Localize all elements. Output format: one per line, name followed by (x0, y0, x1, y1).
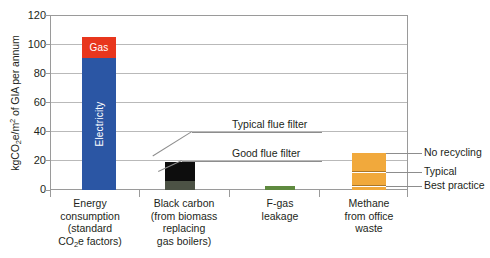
y-tick-label-80: 80 (6, 68, 46, 79)
category-label-black-carbon-line-1: Black carbon (137, 197, 231, 210)
bar-segment-good-flue-filter (165, 181, 195, 190)
emissions-bar-chart: kgCO2e/m2 of GIA per annum 120 100 80 60… (0, 0, 490, 258)
leader-line-typical (386, 172, 422, 173)
category-label-energy-line-1: Energy (45, 197, 135, 210)
x-tick-mark-2 (229, 190, 230, 197)
bar-f-gas-leakage (265, 186, 295, 190)
x-tick-mark-3 (319, 190, 320, 197)
x-tick-mark-0 (50, 190, 51, 197)
annotation-good-flue-filter: Good flue filter (232, 147, 300, 159)
annotation-typical: Typical (424, 165, 457, 177)
y-axis-title-sup-2: 2 (8, 119, 17, 123)
category-label-methane-line-2: from office (326, 210, 412, 223)
annotation-no-recycling: No recycling (424, 146, 482, 158)
annotation-good-flue-filter-underline (182, 161, 322, 162)
y-tick-label-0: 0 (6, 184, 46, 195)
annotation-typical-flue-filter: Typical flue filter (232, 118, 307, 130)
bar-segment-no-recycling (352, 153, 386, 172)
bar-energy-consumption: Gas Electricity (82, 37, 116, 190)
bar-segment-typical-recycling (352, 173, 386, 186)
category-label-f-gas-line-1: F-gas (237, 197, 323, 210)
y-tick-label-20: 20 (6, 155, 46, 166)
annotation-typical-flue-filter-underline (192, 132, 322, 133)
category-label-energy-consumption: Energy consumption (standard CO2e factor… (45, 197, 135, 249)
bar-segment-gas: Gas (82, 37, 116, 58)
bar-segment-electricity: Electricity (82, 58, 116, 190)
category-label-f-gas-leakage: F-gas leakage (237, 197, 323, 222)
bar-segment-gas-label: Gas (82, 37, 116, 58)
x-tick-mark-4 (407, 190, 408, 197)
bar-segment-electricity-label: Electricity (33, 107, 165, 141)
category-label-black-carbon: Black carbon (from biomass replacing gas… (137, 197, 231, 247)
x-tick-mark-1 (139, 190, 140, 197)
bar-methane-office-waste (352, 153, 386, 190)
y-tick-label-120: 120 (6, 10, 46, 21)
category-label-methane: Methane from office waste (326, 197, 412, 235)
annotation-best-practice: Best practice (424, 179, 485, 191)
category-label-methane-line-3: waste (326, 222, 412, 235)
category-label-black-carbon-line-2: (from biomass (137, 210, 231, 223)
category-label-methane-line-1: Methane (326, 197, 412, 210)
category-label-black-carbon-line-4: gas boilers) (137, 235, 231, 248)
bar-segment-best-practice-recycling (352, 187, 386, 190)
leader-line-no-recycling (386, 153, 422, 154)
category-label-energy-line-2: consumption (45, 210, 135, 223)
y-axis-title-sub-2: 2 (14, 140, 23, 144)
category-label-f-gas-line-2: leakage (237, 210, 323, 223)
category-label-energy-line-3: (standard (45, 222, 135, 235)
category-label-energy-line-4: CO2e factors) (45, 235, 135, 250)
y-tick-label-100: 100 (6, 39, 46, 50)
leader-line-best-practice (386, 186, 422, 187)
category-label-black-carbon-line-3: replacing (137, 222, 231, 235)
bar-segment-f-gas (265, 186, 295, 190)
